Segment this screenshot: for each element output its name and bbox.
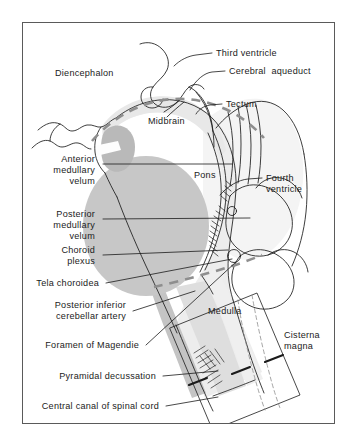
label-cerebral-aqueduct: Cerebral aqueduct — [229, 66, 311, 77]
label-pyramidal-decussation: Pyramidal decussation — [0, 371, 156, 382]
label-tela-choroidea: Tela choroidea — [0, 278, 99, 289]
label-diencephalon: Diencephalon — [55, 68, 114, 79]
label-central-canal-of-spinal-cord: Central canal of spinal cord — [0, 401, 159, 412]
label-cisterna-magna-line1: Cisterna — [284, 330, 320, 341]
label-fourth-ventricle-line1: Fourth — [266, 173, 294, 184]
label-pica-line2: cerebellar artery — [0, 311, 126, 322]
diencephalon-notch — [50, 124, 60, 141]
label-choroid-plexus-line2: plexus — [0, 256, 95, 267]
label-anterior-medullary-velum-line2: medullary — [0, 165, 95, 176]
label-posterior-medullary-velum-line2: medullary — [0, 220, 95, 231]
label-tectum: Tectum — [226, 99, 257, 110]
label-posterior-medullary-velum-line3: velum — [0, 231, 95, 242]
figure-root: Diencephalon Third ventricle Cerebral aq… — [0, 0, 356, 446]
label-foramen-of-magendie: Foramen of Magendie — [0, 340, 139, 351]
label-posterior-medullary-velum-line1: Posterior — [0, 209, 95, 220]
label-anterior-medullary-velum-line3: velum — [0, 176, 95, 187]
label-anterior-medullary-velum-line1: Anterior — [0, 154, 95, 165]
label-cisterna-magna-line2: magna — [284, 341, 313, 352]
label-pons: Pons — [194, 170, 216, 181]
label-midbrain: Midbrain — [148, 116, 185, 127]
leader-third-ventricle — [174, 53, 212, 66]
label-medulla: Medulla — [208, 306, 242, 317]
label-third-ventricle: Third ventricle — [216, 48, 277, 59]
label-fourth-ventricle-line2: ventricle — [266, 184, 302, 195]
label-pica-line1: Posterior inferior — [0, 300, 126, 311]
diencephalon-contour-lower — [32, 140, 91, 149]
label-choroid-plexus-line1: Choroid — [0, 245, 95, 256]
leader-cerebral-aqueduct — [190, 71, 225, 90]
